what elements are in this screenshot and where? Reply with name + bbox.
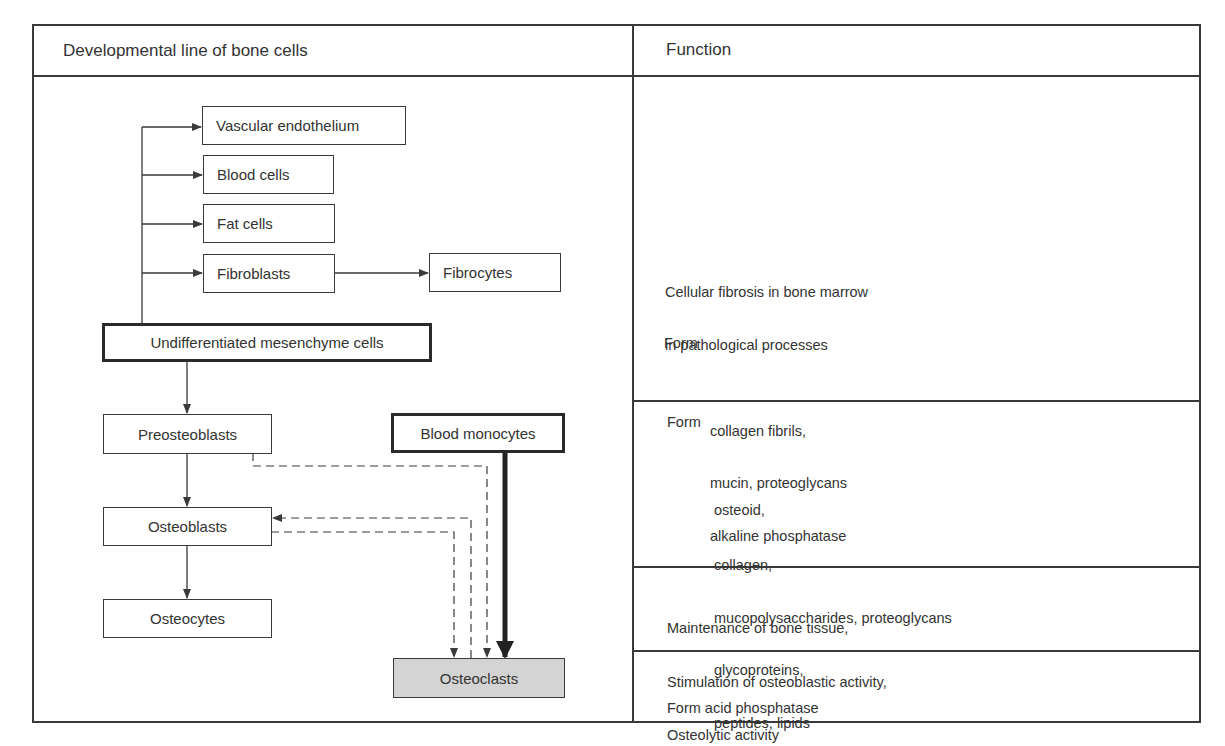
node-preosteoblasts: Preosteoblasts	[103, 414, 272, 454]
node-label: Fibrocytes	[443, 264, 512, 281]
node-osteocytes: Osteocytes	[103, 599, 272, 638]
function-osteoclasts: Form acid phosphatase Resorption of bone…	[667, 665, 928, 746]
node-label: Osteoblasts	[148, 518, 227, 535]
node-undifferentiated-mesenchyme: Undifferentiated mesenchyme cells	[102, 323, 432, 362]
node-label: Blood monocytes	[420, 425, 535, 442]
node-label: Fat cells	[217, 215, 273, 232]
node-fat-cells: Fat cells	[203, 204, 335, 243]
function-line: collagen,	[714, 557, 952, 575]
node-blood-cells: Blood cells	[203, 155, 334, 194]
node-label: Preosteoblasts	[138, 426, 237, 443]
node-label: Osteocytes	[150, 610, 225, 627]
node-osteoclasts: Osteoclasts	[393, 658, 565, 698]
node-osteoblasts: Osteoblasts	[103, 507, 272, 546]
function-prefix: Form	[667, 414, 701, 432]
node-label: Blood cells	[217, 166, 290, 183]
node-fibrocytes: Fibrocytes	[429, 253, 561, 292]
function-prefix: Form	[664, 335, 698, 353]
function-line: Form acid phosphatase	[667, 700, 928, 718]
node-label: Vascular endothelium	[216, 117, 359, 134]
node-fibroblasts: Fibroblasts	[203, 254, 335, 293]
function-line: osteoid,	[714, 502, 952, 520]
node-label: Osteoclasts	[440, 670, 518, 687]
node-label: Fibroblasts	[217, 265, 290, 282]
function-line: Cellular fibrosis in bone marrow	[665, 284, 868, 302]
node-blood-monocytes: Blood monocytes	[391, 413, 565, 453]
node-label: Undifferentiated mesenchyme cells	[150, 334, 383, 351]
node-vascular-endothelium: Vascular endothelium	[202, 106, 406, 145]
function-line: Maintenance of bone tissue,	[667, 620, 887, 638]
